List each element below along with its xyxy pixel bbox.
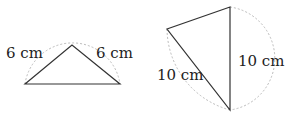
right-side-label: 6 cm: [96, 44, 133, 62]
diagonal-side-label: 10 cm: [157, 66, 203, 84]
left-triangle-figure: 6 cm 6 cm: [6, 43, 133, 84]
diagram-canvas: 6 cm 6 cm 10 cm 10 cm: [0, 0, 294, 121]
right-triangle: [167, 7, 230, 110]
left-side-label: 6 cm: [6, 44, 43, 62]
right-triangle-figure: 10 cm 10 cm: [157, 7, 284, 110]
vertical-side-label: 10 cm: [238, 52, 284, 70]
